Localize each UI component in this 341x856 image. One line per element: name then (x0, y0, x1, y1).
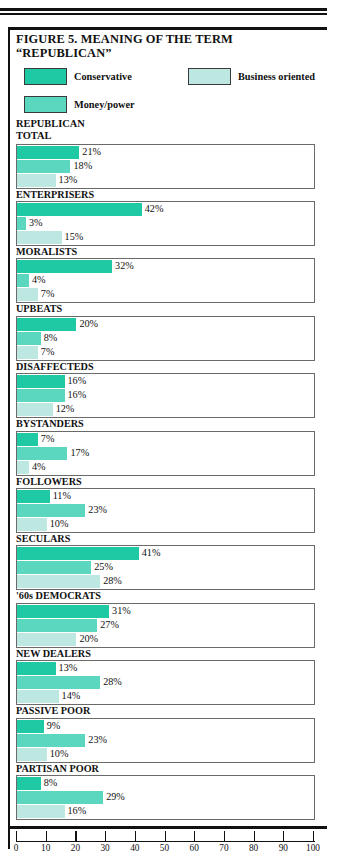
axis-tick-label: 100 (306, 843, 320, 853)
chart-bar (17, 504, 85, 517)
legend-item-money-power: Money/power (24, 96, 135, 113)
axis-tick-label: 40 (130, 843, 139, 853)
chart-bar-row: 16% (17, 389, 314, 402)
axis-tick (165, 831, 166, 842)
chart-bar-row: 28% (17, 575, 314, 588)
chart-bar (17, 447, 67, 460)
legend-swatch-conservative (24, 68, 67, 85)
chart-bar-row: 8% (17, 777, 314, 790)
axis-tick-label: 60 (190, 843, 199, 853)
chart-bar-row: 7% (17, 433, 314, 446)
chart-bar (17, 375, 65, 388)
chart-group-plot: 16%16%12% (16, 373, 315, 418)
axis-tick (313, 831, 314, 842)
chart-bar (17, 231, 62, 244)
chart-bar-value-label: 8% (44, 331, 58, 345)
chart-bar-row: 28% (17, 676, 314, 689)
chart-group: DISAFFECTEDS16%16%12% (16, 361, 327, 418)
chart-group-label: MORALISTS (16, 246, 327, 258)
chart-bar-value-label: 15% (65, 230, 84, 244)
axis-tick (46, 831, 47, 842)
figure-page: FIGURE 5. MEANING OF THE TERM “REPUBLICA… (0, 0, 341, 856)
chart-bar-value-label: 4% (32, 273, 46, 287)
chart-group-plot: 9%23%10% (16, 718, 315, 763)
chart-group: FOLLOWERS11%23%10% (16, 476, 327, 533)
axis-tick-label: 30 (100, 843, 109, 853)
chart-bar-row: 23% (17, 504, 314, 517)
chart-bar-value-label: 7% (41, 345, 55, 359)
chart-group: 21%18%13% (16, 144, 327, 189)
chart-bar-row: 32% (17, 260, 314, 273)
chart-bar-row: 25% (17, 561, 314, 574)
chart-bar-row: 31% (17, 605, 314, 618)
chart-bar (17, 734, 85, 747)
axis-tick (283, 831, 284, 842)
chart-bar (17, 575, 100, 588)
chart-bar-row: 20% (17, 633, 314, 646)
chart-bar-row: 27% (17, 619, 314, 632)
legend-label-conservative: Conservative (74, 71, 132, 82)
chart-bar-value-label: 8% (44, 776, 58, 790)
chart-caption: REPUBLICAN TOTAL (16, 118, 327, 142)
chart-bar (17, 274, 29, 287)
chart-bar-value-label: 41% (142, 546, 161, 560)
chart-group: PASSIVE POOR9%23%10% (16, 705, 327, 762)
chart-bar-value-label: 29% (106, 790, 125, 804)
chart-group-plot: 13%28%14% (16, 660, 315, 705)
chart-bar-row: 18% (17, 160, 314, 173)
chart-bar (17, 518, 47, 531)
chart-bar-value-label: 9% (47, 719, 61, 733)
chart-bar-value-label: 4% (32, 460, 46, 474)
figure-title: FIGURE 5. MEANING OF THE TERM “REPUBLICA… (16, 33, 327, 60)
chart-group: MORALISTS32%4%7% (16, 246, 327, 303)
chart-bar (17, 605, 109, 618)
figure-title-line-2: “REPUBLICAN” (16, 47, 327, 61)
chart-bar-row: 11% (17, 490, 314, 503)
figure-top-rule (8, 27, 327, 30)
chart-bar-value-label: 13% (59, 661, 78, 675)
axis-tick-label: 50 (160, 843, 169, 853)
caption-total: TOTAL (16, 130, 327, 142)
chart-bar-row: 3% (17, 217, 314, 230)
chart-bar-value-label: 3% (29, 216, 43, 230)
chart-bar (17, 160, 70, 173)
legend-swatch-money-power (24, 96, 67, 113)
chart-bar-value-label: 7% (41, 287, 55, 301)
figure-body: FIGURE 5. MEANING OF THE TERM “REPUBLICA… (16, 33, 327, 856)
page-top-rule-thick (0, 8, 327, 11)
chart-bar-row: 7% (17, 346, 314, 359)
chart-bar-value-label: 20% (79, 317, 98, 331)
chart-bar-value-label: 7% (41, 432, 55, 446)
chart-bar (17, 690, 59, 703)
chart-group-plot: 11%23%10% (16, 488, 315, 533)
chart-bar-value-label: 20% (79, 632, 98, 646)
chart-bar-row: 21% (17, 146, 314, 159)
chart-bar-value-label: 10% (50, 517, 69, 531)
chart-bar-value-label: 32% (115, 259, 134, 273)
chart-bar-value-label: 21% (82, 145, 101, 159)
chart-group-label: FOLLOWERS (16, 476, 327, 488)
chart-bar-value-label: 13% (59, 173, 78, 187)
chart-group: BYSTANDERS7%17%4% (16, 418, 327, 475)
chart-bar (17, 146, 79, 159)
chart-bar-value-label: 17% (70, 446, 89, 460)
axis-tick-label: 80 (249, 843, 258, 853)
chart-bar-row: 9% (17, 720, 314, 733)
chart-bar-value-label: 23% (88, 503, 107, 517)
figure-title-line-1: FIGURE 5. MEANING OF THE TERM (16, 33, 327, 47)
chart-bar-row: 10% (17, 748, 314, 761)
chart-bar-value-label: 31% (112, 604, 131, 618)
chart-bar-row: 8% (17, 332, 314, 345)
chart-group-plot: 8%29%16% (16, 775, 315, 820)
chart-bar (17, 633, 76, 646)
chart-group-label: BYSTANDERS (16, 418, 327, 430)
axis-tick-label: 10 (41, 843, 50, 853)
axis-tick (75, 831, 76, 842)
chart-bar-row: 41% (17, 547, 314, 560)
chart-legend: Conservative Business oriented Money/pow… (16, 68, 327, 120)
legend-item-business-oriented: Business oriented (188, 68, 315, 85)
chart-bar-value-label: 25% (94, 560, 113, 574)
chart-bar (17, 403, 53, 416)
chart-bar (17, 561, 91, 574)
chart-bar (17, 662, 56, 675)
